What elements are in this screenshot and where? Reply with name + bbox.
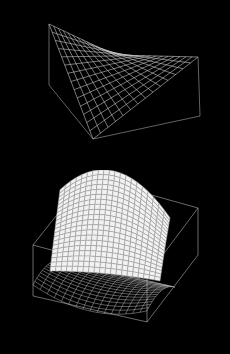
surface-patch: [90, 194, 96, 199]
surface-patch: [92, 235, 98, 240]
grid-line: [77, 56, 168, 98]
surface-patch: [82, 220, 88, 226]
surface-patch: [89, 267, 95, 273]
surface-patch: [102, 189, 108, 194]
surface-patch: [90, 251, 96, 257]
base-projection-line: [35, 281, 149, 310]
saddle-surface-canvas: [0, 170, 230, 354]
surface-patch: [91, 240, 97, 245]
surface-patch: [78, 261, 84, 266]
surface-patch: [103, 236, 109, 242]
surface-patch: [133, 272, 139, 278]
surface-patch: [90, 256, 96, 262]
surface-patch: [106, 257, 112, 263]
surface-patch: [87, 230, 93, 235]
surface-patch: [107, 247, 113, 253]
surface-patch: [91, 189, 97, 195]
surface-patch: [90, 199, 96, 204]
surface-patch: [100, 262, 106, 268]
surface-patch: [72, 266, 78, 271]
surface-patch: [98, 225, 104, 231]
grid-line: [96, 46, 168, 80]
surface-patch: [94, 267, 100, 273]
surface-patch: [80, 240, 86, 245]
surface-patch: [95, 262, 101, 268]
wireframe-surface-canvas: [0, 0, 230, 177]
surface-patch: [97, 179, 103, 184]
surface-patch: [101, 194, 107, 199]
grid-line: [93, 57, 198, 139]
surface-patch: [100, 204, 106, 209]
surface-patch: [95, 256, 101, 262]
surface-patch: [102, 246, 108, 252]
surface-patch: [61, 266, 67, 271]
surface-patch: [97, 184, 103, 189]
surface-patch: [107, 252, 113, 258]
surface-patch: [101, 257, 107, 263]
surface-patch: [106, 263, 112, 269]
surface-patch: [117, 264, 123, 270]
surface-patch: [93, 220, 99, 225]
surface-patch: [67, 266, 73, 271]
surface-patch: [101, 199, 107, 204]
surface-patch: [76, 230, 82, 236]
surface-patch: [56, 266, 62, 271]
surface-patch: [94, 209, 100, 214]
surface-patch: [69, 246, 75, 251]
grid-line: [84, 57, 181, 115]
surface-patch: [99, 220, 105, 226]
surface-patch: [75, 236, 81, 242]
surface-patch: [100, 209, 106, 215]
surface-patch: [68, 251, 74, 256]
surface-patch: [102, 241, 108, 247]
surface-patch: [103, 179, 109, 184]
surface-patch: [79, 251, 85, 256]
surface-patch: [81, 230, 87, 235]
wireframe-surface-plot: [0, 0, 230, 177]
surface-patch: [122, 270, 128, 276]
surface-patch: [74, 251, 80, 256]
surface-patch: [104, 220, 110, 226]
surface-patch: [89, 209, 95, 214]
surface-patch: [102, 184, 108, 189]
surface-patch: [78, 266, 84, 272]
surface-patch: [74, 246, 80, 251]
surface-patch: [101, 251, 107, 257]
surface-patch: [62, 261, 68, 266]
surface-patch: [80, 246, 86, 251]
surface-patch: [73, 256, 79, 261]
surface-patch: [100, 268, 106, 274]
surface-patch: [63, 251, 69, 256]
surface-patch: [62, 256, 68, 261]
surface-patch: [98, 175, 104, 180]
surface-patch: [89, 204, 95, 209]
surface-patch: [63, 247, 69, 252]
surface-patch: [83, 215, 89, 221]
surface-patch: [98, 230, 104, 236]
surface-patch: [97, 235, 103, 241]
surface-patch: [56, 262, 62, 267]
box-edge: [49, 85, 93, 139]
surface-patch: [73, 261, 79, 266]
surface-patch: [95, 204, 101, 209]
surface-patch: [144, 274, 150, 279]
surface-patch: [92, 230, 98, 235]
surface-patch: [96, 246, 102, 252]
surface-patch: [95, 199, 101, 204]
shaded-saddle-surface-plot: [0, 170, 230, 354]
surface-patch: [96, 251, 102, 257]
surface-patch: [98, 170, 104, 175]
surface-patch: [138, 273, 144, 278]
surface-patch: [85, 246, 91, 251]
surface-patch: [82, 225, 88, 231]
surface-patch: [51, 257, 57, 262]
surface-patch: [68, 256, 74, 261]
surface-patch: [96, 189, 102, 194]
surface-patch: [103, 175, 109, 180]
surface-patch: [104, 225, 110, 231]
surface-patch: [104, 170, 110, 175]
surface-patch: [89, 261, 95, 267]
surface-patch: [111, 263, 117, 269]
surface-patch: [97, 240, 103, 246]
surface-patch: [81, 235, 87, 240]
